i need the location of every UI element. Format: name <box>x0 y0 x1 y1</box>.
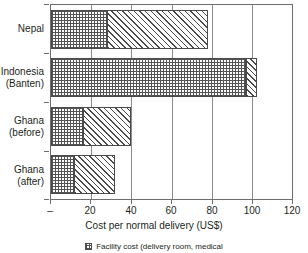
y-axis-label-nepal: Nepal <box>0 4 44 53</box>
y-axis-tick <box>44 4 49 5</box>
x-axis-tick <box>171 200 172 204</box>
x-axis: – 20 40 60 80 100 120 <box>50 200 293 220</box>
bar-segment-other-ghana-after <box>74 155 115 194</box>
y-axis-label-line: Indonesia <box>1 66 44 78</box>
x-axis-tick <box>292 200 293 204</box>
plot-area <box>50 4 293 200</box>
x-axis-tick-label: 40 <box>111 205 151 216</box>
bar-segment-other-indonesia-banten <box>246 58 257 97</box>
x-axis-tick-label: 60 <box>151 205 191 216</box>
y-axis-label-ghana-after: Ghana (after) <box>0 151 44 200</box>
legend-swatch-icon <box>85 243 92 250</box>
bar-chart-figure: Nepal Indonesia (Banten) Ghana (before) … <box>0 0 308 253</box>
y-axis-label-line: Ghana <box>14 164 44 176</box>
y-axis-label-ghana-before: Ghana (before) <box>0 102 44 151</box>
bar-group-ghana-after <box>51 151 292 200</box>
legend-item-facility-cost: Facility cost (delivery room, medical <box>85 242 223 251</box>
y-axis-label-line: Nepal <box>18 23 44 35</box>
y-axis: Nepal Indonesia (Banten) Ghana (before) … <box>0 4 48 200</box>
x-axis-tick <box>50 200 51 204</box>
x-axis-tick-label: 120 <box>272 205 308 216</box>
y-axis-label-line: Ghana <box>14 115 44 127</box>
x-axis-tick <box>90 200 91 204</box>
y-axis-tick <box>44 102 49 103</box>
bar-segment-facility-ghana-after <box>51 155 74 194</box>
x-axis-tick-label: 100 <box>232 205 272 216</box>
x-axis-tick-label: 20 <box>70 205 110 216</box>
x-axis-tick <box>252 200 253 204</box>
bar-group-nepal <box>51 5 292 54</box>
x-axis-tick-label: – <box>30 205 70 216</box>
bar-segment-facility-ghana-before <box>51 107 83 146</box>
bar-segment-facility-nepal <box>51 10 107 49</box>
y-axis-tick <box>44 151 49 152</box>
bar-segment-other-nepal <box>107 10 207 49</box>
x-axis-tick <box>212 200 213 204</box>
x-axis-tick-label: 80 <box>192 205 232 216</box>
y-axis-label-indonesia-banten: Indonesia (Banten) <box>0 53 44 102</box>
bar-group-ghana-before <box>51 102 292 151</box>
x-axis-title: Cost per normal delivery (US$) <box>0 220 308 231</box>
legend: Facility cost (delivery room, medical <box>0 242 308 251</box>
bar-group-indonesia-banten <box>51 54 292 103</box>
y-axis-label-line: (after) <box>17 176 44 188</box>
bar-segment-other-ghana-before <box>83 107 131 146</box>
bar-segment-facility-indonesia-banten <box>51 58 246 97</box>
y-axis-label-line: (before) <box>9 127 44 139</box>
y-axis-label-line: (Banten) <box>6 78 44 90</box>
legend-item-label: Facility cost (delivery room, medical <box>96 242 223 251</box>
y-axis-tick <box>44 199 49 200</box>
y-axis-tick <box>44 53 49 54</box>
x-axis-tick <box>131 200 132 204</box>
